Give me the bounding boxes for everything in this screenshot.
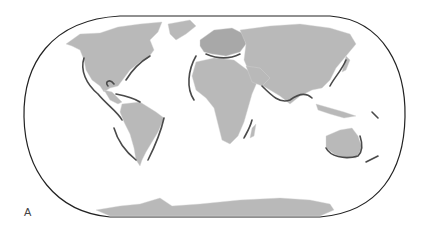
world-map [0, 0, 425, 237]
panel-label: A [24, 206, 31, 218]
